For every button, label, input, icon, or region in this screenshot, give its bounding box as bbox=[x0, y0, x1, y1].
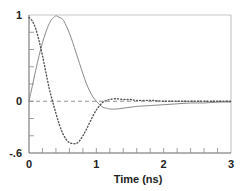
y-tick-label: 1 bbox=[16, 9, 22, 21]
x-axis-tick-labels: 0123 bbox=[26, 158, 234, 170]
x-axis-title: Time (ns) bbox=[114, 173, 163, 185]
plot-frame bbox=[29, 15, 231, 153]
minor-ticks bbox=[29, 32, 218, 153]
x-tick-label: 3 bbox=[228, 158, 234, 170]
series-dotted-line bbox=[29, 18, 231, 144]
y-tick-label: -.6 bbox=[9, 147, 22, 159]
y-axis-tick-labels: 10-.6 bbox=[9, 9, 22, 159]
data-series bbox=[29, 16, 231, 144]
x-tick-label: 2 bbox=[161, 158, 167, 170]
x-tick-label: 0 bbox=[26, 158, 32, 170]
y-tick-label: 0 bbox=[16, 95, 22, 107]
line-chart: 0123 10-.6 Time (ns) bbox=[0, 0, 242, 191]
series-solid-line bbox=[29, 16, 231, 109]
x-tick-label: 1 bbox=[93, 158, 99, 170]
